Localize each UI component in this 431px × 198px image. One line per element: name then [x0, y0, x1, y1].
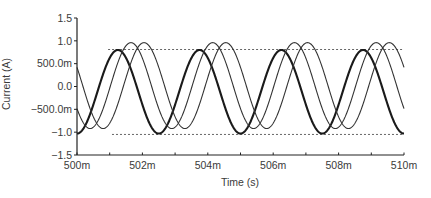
data-series: [77, 43, 404, 134]
series-line-thin-trace-A: [77, 43, 404, 129]
x-tick-label: 510m: [391, 159, 418, 171]
x-tick-label: 508m: [325, 159, 352, 171]
x-tick-label: 500m: [64, 159, 91, 171]
y-axis: 1.51.0500.0m0.0−500.0m−1.0−1.5: [31, 12, 77, 161]
x-tick-label: 502m: [129, 159, 156, 171]
y-tick-label: 1.0: [57, 35, 72, 47]
y-tick-label: 1.5: [57, 12, 72, 24]
y-axis-label: Current (A): [0, 58, 12, 110]
series-line-thin-trace-B: [77, 43, 404, 129]
x-axis: 500m502m504m506m508m510m: [64, 153, 418, 172]
y-tick-label: 0.0: [57, 80, 72, 92]
y-tick-label: 500.0m: [37, 57, 72, 69]
current-vs-time-chart: 1.51.0500.0m0.0−500.0m−1.0−1.5 500m502m5…: [0, 0, 431, 198]
x-axis-label: Time (s): [221, 176, 259, 188]
x-tick-label: 506m: [260, 159, 287, 171]
y-tick-label: −500.0m: [31, 103, 72, 115]
reference-lines: [108, 50, 402, 135]
x-tick-label: 504m: [195, 159, 222, 171]
y-tick-label: −1.0: [51, 126, 72, 138]
series-line-bold-trace: [77, 50, 404, 134]
